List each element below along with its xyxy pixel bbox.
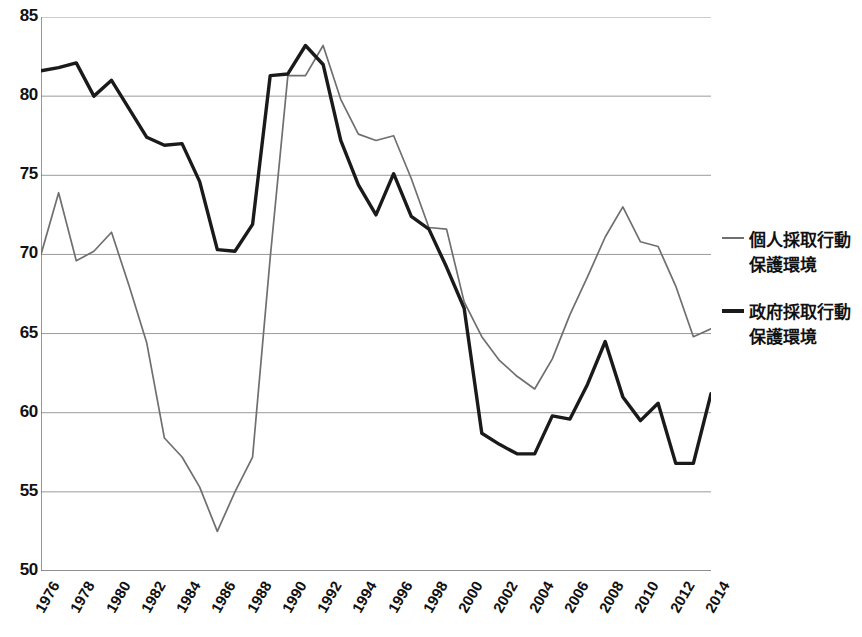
x-tick-label: 1978 [67,578,98,615]
x-tick-label: 2004 [525,578,556,615]
x-tick-label: 1982 [137,578,168,615]
legend-label-personal-line1: 個人採取行動 [749,228,851,253]
x-tick-label: 1996 [384,578,415,615]
x-tick-label: 1984 [172,578,203,615]
x-tick-label: 2006 [560,578,591,615]
x-tick-label: 2002 [490,578,521,615]
x-tick-label: 2012 [666,578,697,615]
legend-label-government-line2: 保護環境 [749,325,851,350]
x-tick-label: 1992 [313,578,344,615]
x-tick-label: 1976 [31,578,62,615]
x-tick-label: 1988 [243,578,274,615]
legend-label-government-line1: 政府採取行動 [749,300,851,325]
x-tick-label: 2000 [454,578,485,615]
legend-label-personal-line2: 保護環境 [749,253,851,278]
x-tick-label: 1998 [419,578,450,615]
legend-label-personal: 個人採取行動 保護環境 [749,228,851,278]
x-tick-label: 2010 [631,578,662,615]
x-tick-label: 1990 [278,578,309,615]
legend-item-government: 政府採取行動 保護環境 [722,300,862,350]
x-tick-label: 2008 [596,578,627,615]
legend-label-government: 政府採取行動 保護環境 [749,300,851,350]
chart-root: 8580757065605550 19761978198019821984198… [0,0,862,637]
legend-item-personal: 個人採取行動 保護環境 [722,228,862,278]
x-tick-label: 1986 [208,578,239,615]
x-tick-label: 2014 [701,578,732,615]
legend-swatch-personal-icon [722,237,744,239]
legend-swatch-government-icon [722,309,744,313]
x-tick-label: 1994 [349,578,380,615]
chart-legend: 個人採取行動 保護環境 政府採取行動 保護環境 [722,228,862,372]
x-tick-label: 1980 [102,578,133,615]
